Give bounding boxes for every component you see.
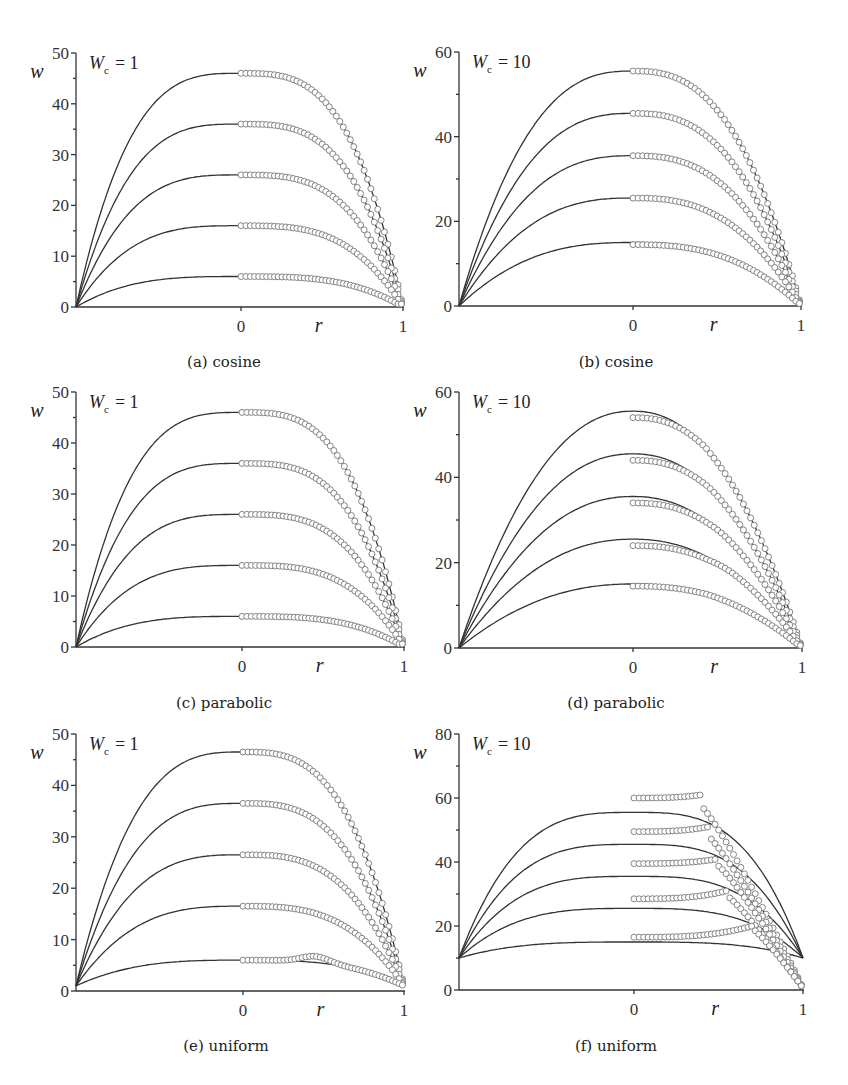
data-point-marker bbox=[389, 956, 395, 962]
data-point-marker bbox=[738, 878, 744, 884]
data-point-marker bbox=[351, 179, 357, 185]
data-point-marker bbox=[716, 827, 722, 833]
y-tick-label: 20 bbox=[435, 212, 452, 231]
x-axis-label: r bbox=[315, 314, 323, 336]
data-point-marker bbox=[730, 482, 736, 488]
x-tick-label: 1 bbox=[399, 317, 408, 336]
model-curve bbox=[459, 539, 802, 648]
data-point-marker bbox=[383, 569, 389, 575]
data-point-marker bbox=[718, 465, 724, 471]
data-point-marker bbox=[740, 146, 746, 152]
data-point-marker bbox=[719, 850, 725, 856]
data-point-marker bbox=[373, 879, 379, 885]
data-point-marker bbox=[752, 910, 758, 916]
model-curve bbox=[459, 243, 801, 307]
y-axis-label: w bbox=[413, 741, 427, 763]
y-tick-label: 0 bbox=[61, 298, 70, 317]
data-point-marker bbox=[734, 858, 740, 864]
data-point-marker bbox=[347, 173, 353, 179]
data-point-marker bbox=[376, 931, 382, 937]
y-tick-label: 60 bbox=[435, 789, 452, 808]
data-point-marker bbox=[371, 219, 377, 225]
y-tick-label: 50 bbox=[52, 383, 69, 402]
parameter-label: Wc= 10 bbox=[472, 52, 531, 75]
y-tick-label: 0 bbox=[444, 639, 453, 658]
data-point-marker bbox=[748, 515, 754, 521]
data-point-marker bbox=[798, 983, 804, 989]
y-tick-label: 60 bbox=[435, 383, 452, 402]
data-point-marker bbox=[359, 843, 365, 849]
data-point-marker bbox=[741, 871, 747, 877]
data-point-marker bbox=[769, 563, 775, 569]
data-point-marker bbox=[762, 546, 768, 552]
y-tick-label: 50 bbox=[52, 44, 69, 63]
x-tick-label: 0 bbox=[239, 1001, 248, 1020]
data-point-marker bbox=[379, 919, 385, 925]
data-point-marker bbox=[354, 184, 360, 190]
parameter-label: Wc= 1 bbox=[89, 734, 139, 757]
data-point-marker bbox=[383, 601, 389, 607]
data-point-marker bbox=[375, 228, 381, 234]
data-point-marker bbox=[740, 174, 746, 180]
y-tick-label: 20 bbox=[435, 917, 452, 936]
y-tick-label: 30 bbox=[52, 485, 69, 504]
data-point-marker bbox=[772, 219, 778, 225]
data-point-marker bbox=[372, 559, 378, 565]
data-point-marker bbox=[355, 490, 361, 496]
data-point-marker bbox=[736, 139, 742, 145]
y-tick-label: 20 bbox=[435, 554, 452, 573]
data-point-marker bbox=[375, 206, 381, 212]
data-point-marker bbox=[382, 229, 388, 235]
data-point-marker bbox=[780, 610, 786, 616]
data-point-marker bbox=[772, 234, 778, 240]
data-point-marker bbox=[727, 845, 733, 851]
data-point-marker bbox=[697, 792, 703, 798]
data-point-marker bbox=[366, 544, 372, 550]
data-point-marker bbox=[356, 835, 362, 841]
data-point-marker bbox=[758, 183, 764, 189]
data-point-marker bbox=[359, 530, 365, 536]
y-axis-label: w bbox=[413, 399, 427, 421]
data-point-marker bbox=[736, 169, 742, 175]
data-point-marker bbox=[385, 255, 391, 261]
data-point-marker bbox=[769, 577, 775, 583]
data-point-marker bbox=[762, 564, 768, 570]
data-point-marker bbox=[797, 642, 803, 648]
y-axis-label: w bbox=[30, 741, 44, 763]
data-point-marker bbox=[376, 546, 382, 552]
panel-d: 020406001rwWc= 10(d) parabolic bbox=[413, 383, 806, 712]
data-point-marker bbox=[359, 874, 365, 880]
data-point-marker bbox=[365, 232, 371, 238]
model-curve bbox=[76, 277, 403, 308]
data-point-marker bbox=[715, 460, 721, 466]
data-point-marker bbox=[744, 533, 750, 539]
data-point-marker bbox=[378, 255, 384, 261]
data-point-marker bbox=[773, 585, 779, 591]
data-point-marker bbox=[722, 471, 728, 477]
y-tick-label: 0 bbox=[444, 981, 453, 1000]
y-tick-label: 20 bbox=[52, 879, 69, 898]
data-point-marker bbox=[765, 201, 771, 207]
panel-e: 0102030405001rwWc= 1(e) uniform bbox=[30, 725, 408, 1055]
data-point-marker bbox=[338, 802, 344, 808]
data-point-marker bbox=[740, 527, 746, 533]
data-point-marker bbox=[358, 191, 364, 197]
x-axis-label: r bbox=[316, 998, 324, 1020]
data-point-marker bbox=[386, 950, 392, 956]
figure-grid: 0102030405001rwWc= 1(a) cosine020406001r… bbox=[0, 0, 848, 1085]
model-curve bbox=[76, 906, 404, 986]
data-point-marker bbox=[369, 919, 375, 925]
data-point-marker bbox=[388, 276, 394, 282]
data-point-marker bbox=[386, 937, 392, 943]
y-tick-label: 80 bbox=[435, 725, 452, 744]
data-point-marker bbox=[366, 887, 372, 893]
data-point-marker bbox=[354, 151, 360, 157]
data-point-marker bbox=[747, 160, 753, 166]
data-point-marker bbox=[376, 567, 382, 573]
panel-caption: (d) parabolic bbox=[567, 694, 664, 712]
panel-caption: (a) cosine bbox=[187, 353, 261, 371]
data-point-marker bbox=[382, 262, 388, 268]
data-point-marker bbox=[366, 572, 372, 578]
x-tick-label: 1 bbox=[400, 1001, 409, 1020]
data-point-marker bbox=[723, 839, 729, 845]
